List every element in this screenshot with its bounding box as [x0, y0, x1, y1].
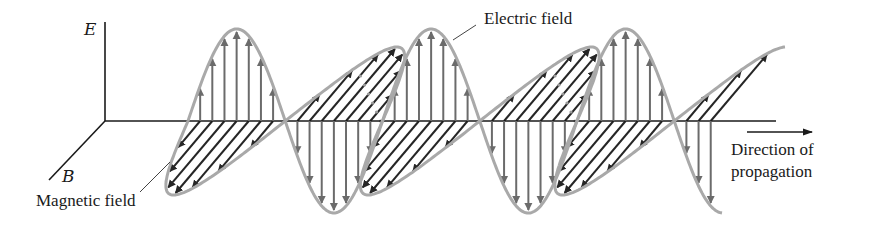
- e-axis-label: E: [84, 19, 96, 39]
- electric-field-label: Electric field: [484, 9, 572, 29]
- hidden-outline-dot: [367, 92, 370, 95]
- hidden-outline-dot: [569, 110, 572, 113]
- direction-label-line-2: propagation: [731, 161, 814, 183]
- direction-of-propagation-label: Direction of propagation: [731, 139, 814, 183]
- hidden-outline-dot: [553, 74, 556, 77]
- hidden-outline-dot: [363, 83, 366, 86]
- electric-field-leader-line: [453, 25, 476, 40]
- magnetic-field-label: Magnetic field: [36, 191, 136, 211]
- hidden-outline-dot: [359, 74, 362, 77]
- hidden-outline-dot: [565, 101, 568, 104]
- direction-label-line-1: Direction of: [731, 139, 814, 161]
- magnetic-field-arrow: [168, 121, 224, 187]
- b-axis-label: B: [62, 166, 75, 186]
- b-axis: [49, 121, 105, 180]
- hidden-outline-dot: [375, 110, 378, 113]
- hidden-outline-dot: [371, 101, 374, 104]
- hidden-outline-dot: [561, 92, 564, 95]
- hidden-outline-dot: [557, 83, 560, 86]
